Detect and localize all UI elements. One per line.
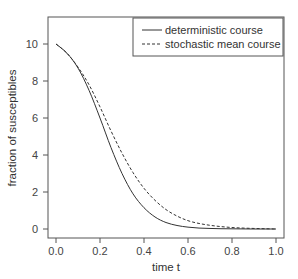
- x-axis-label: time t: [152, 261, 181, 273]
- legend: deterministic course stochastic mean cou…: [133, 18, 283, 56]
- y-axis-label: fraction of susceptibles: [6, 69, 18, 186]
- y-tick-label: 2: [32, 186, 38, 198]
- x-tick-label: 0.0: [48, 245, 63, 257]
- chart: 0.00.20.40.60.81.0 0246810 time t fracti…: [0, 0, 298, 279]
- y-tick-label: 6: [32, 112, 38, 124]
- legend-entry-stochastic: stochastic mean course: [165, 38, 281, 50]
- x-axis: 0.00.20.40.60.81.0: [48, 238, 283, 257]
- y-axis: 0246810: [26, 38, 48, 235]
- stochastic-mean-line: [56, 44, 276, 229]
- y-tick-label: 10: [26, 38, 38, 50]
- x-tick-label: 0.2: [92, 245, 107, 257]
- y-tick-label: 8: [32, 75, 38, 87]
- x-tick-label: 0.4: [136, 245, 151, 257]
- x-tick-label: 0.6: [180, 245, 195, 257]
- x-tick-label: 1.0: [268, 245, 283, 257]
- series-layer: [56, 44, 276, 229]
- y-tick-label: 0: [32, 223, 38, 235]
- legend-entry-deterministic: deterministic course: [165, 24, 263, 36]
- deterministic-line: [56, 44, 276, 229]
- y-tick-label: 4: [32, 149, 38, 161]
- x-tick-label: 0.8: [224, 245, 239, 257]
